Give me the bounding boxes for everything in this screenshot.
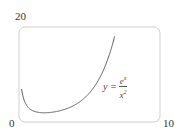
y-max-label: 20 xyxy=(15,10,26,22)
denominator-exponent: 2 xyxy=(124,89,127,95)
equation-fraction: ex x2 xyxy=(119,73,128,100)
plot-area xyxy=(0,0,181,136)
x-min-label: 0 xyxy=(9,117,15,129)
equation-label: y = ex x2 xyxy=(103,73,127,100)
x-max-label: 10 xyxy=(163,117,174,129)
numerator-exponent: x xyxy=(124,75,127,81)
equation-lhs: y = xyxy=(103,81,117,92)
viewing-window-frame xyxy=(19,27,160,122)
function-curve xyxy=(22,36,115,112)
